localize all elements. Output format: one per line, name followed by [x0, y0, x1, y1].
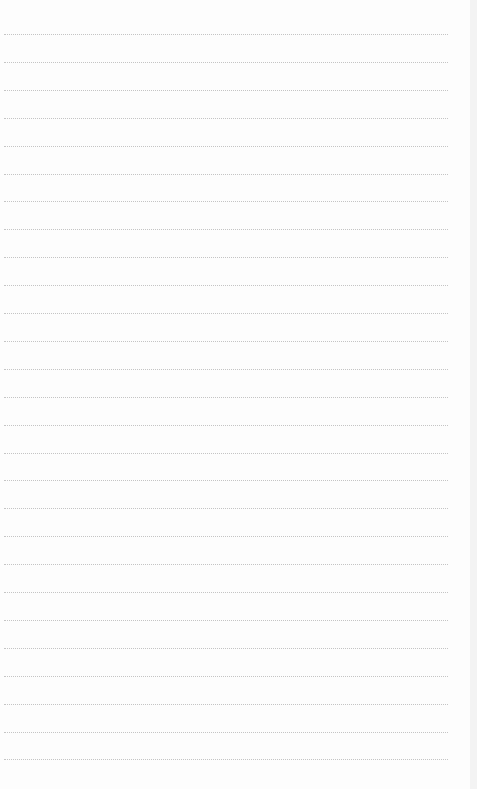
- ruled-line: [4, 90, 448, 91]
- ruled-line: [4, 62, 448, 63]
- ruled-line: [4, 313, 448, 314]
- ruled-line: [4, 201, 448, 202]
- ruled-line: [4, 480, 448, 481]
- ruled-line: [4, 592, 448, 593]
- ruled-line: [4, 536, 448, 537]
- ruled-line: [4, 648, 448, 649]
- ruled-line: [4, 174, 448, 175]
- ruled-line: [4, 453, 448, 454]
- ruled-line: [4, 229, 448, 230]
- ruled-line: [4, 676, 448, 677]
- ruled-line: [4, 564, 448, 565]
- ruled-line: [4, 285, 448, 286]
- page-edge: [470, 0, 477, 789]
- faint-header-text: [4, 6, 444, 26]
- ruled-line: [4, 146, 448, 147]
- ruled-line: [4, 508, 448, 509]
- lined-paper-page: [0, 0, 470, 789]
- ruled-line: [4, 620, 448, 621]
- ruled-line: [4, 257, 448, 258]
- ruled-line: [4, 34, 448, 35]
- ruled-line: [4, 759, 448, 760]
- ruled-line: [4, 118, 448, 119]
- ruled-line: [4, 397, 448, 398]
- ruled-line: [4, 704, 448, 705]
- ruled-line: [4, 341, 448, 342]
- ruled-line: [4, 369, 448, 370]
- ruled-line: [4, 425, 448, 426]
- ruled-line: [4, 732, 448, 733]
